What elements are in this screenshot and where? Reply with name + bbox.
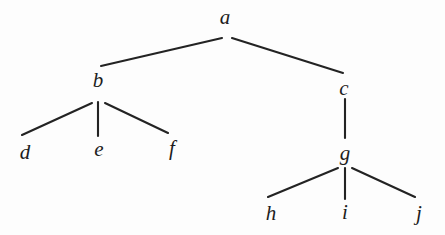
tree-node-b: b <box>93 70 104 91</box>
tree-node-g: g <box>340 143 351 164</box>
tree-node-c: c <box>339 78 348 99</box>
tree-edge-b-d <box>22 103 92 135</box>
tree-node-i: i <box>342 202 348 223</box>
tree-edge-g-j <box>352 168 415 197</box>
tree-diagram-canvas: abcdefghij <box>0 0 445 235</box>
tree-node-d: d <box>20 142 31 163</box>
tree-edges-layer <box>0 0 445 235</box>
tree-edge-a-b <box>101 38 222 66</box>
tree-node-j: j <box>416 203 422 224</box>
edges-group <box>22 38 415 199</box>
tree-node-a: a <box>220 7 231 28</box>
tree-node-f: f <box>169 138 175 159</box>
tree-node-e: e <box>94 139 103 160</box>
tree-edge-a-c <box>232 38 343 73</box>
tree-edge-b-f <box>105 103 168 133</box>
tree-node-h: h <box>266 203 277 224</box>
tree-edge-g-h <box>268 168 338 197</box>
